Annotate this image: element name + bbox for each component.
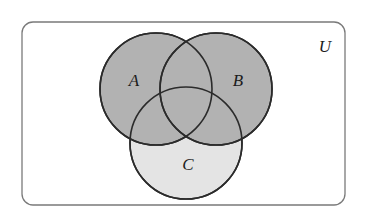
set-label-b: B [233, 71, 244, 90]
set-label-a: A [128, 71, 140, 90]
venn-diagram-canvas: A B C U [0, 0, 365, 212]
venn-diagram-figure: A B C U [0, 0, 365, 212]
set-label-c: C [182, 155, 194, 174]
universal-set-label-u: U [319, 37, 333, 56]
